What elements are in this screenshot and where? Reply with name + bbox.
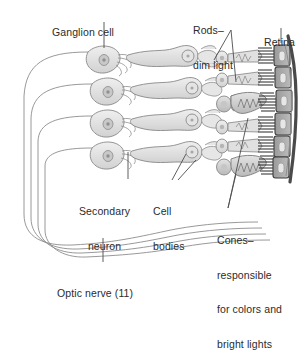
label-retina-text: Retina: [264, 37, 295, 49]
nucleolus: [190, 86, 193, 89]
label-secondary-neuron-line2: neuron: [79, 241, 130, 253]
nucleolus: [190, 118, 193, 121]
nucleolus: [106, 154, 109, 157]
nucleus: [221, 164, 227, 170]
label-optic-nerve: Optic nerve (11): [57, 265, 133, 311]
nucleolus: [102, 58, 105, 61]
nucleus: [221, 101, 227, 107]
rod: [228, 139, 262, 152]
leader-cones-b: [228, 174, 236, 208]
label-optic-nerve-text: Optic nerve (11): [57, 288, 133, 300]
label-rods-line2: dim light: [193, 60, 233, 72]
label-rods: Rods– dim light: [193, 2, 233, 83]
nucleolus: [190, 150, 193, 153]
label-cones-line4: bright lights: [217, 339, 282, 351]
neuron-chain-row-4: [90, 142, 222, 170]
label-ganglion-cell: Ganglion cell: [52, 4, 114, 50]
label-secondary-neuron-line1: Secondary: [79, 206, 130, 218]
label-cell-bodies-line2: bodies: [153, 241, 185, 253]
nucleus: [220, 144, 224, 148]
rod: [228, 72, 262, 85]
pigment-villi: [258, 48, 276, 174]
label-cones-line2: responsible: [217, 270, 282, 282]
label-cones-line1: Cones–: [217, 235, 282, 247]
label-ganglion-cell-text: Ganglion cell: [52, 27, 114, 39]
label-retina: Retina: [264, 14, 295, 60]
label-cones-line3: for colors and: [217, 304, 282, 316]
neuron-chain-row-3: [90, 110, 222, 138]
nucleus: [220, 125, 224, 129]
label-cones: Cones– responsible for colors and bright…: [217, 212, 282, 354]
nucleolus: [106, 122, 109, 125]
label-cell-bodies-line1: Cell: [153, 206, 185, 218]
label-cell-bodies: Cell bodies: [153, 183, 185, 264]
label-rods-line1: Rods–: [193, 25, 233, 37]
nucleolus: [186, 54, 189, 57]
nucleolus: [106, 90, 109, 93]
label-secondary-neuron: Secondary neuron: [79, 183, 130, 264]
